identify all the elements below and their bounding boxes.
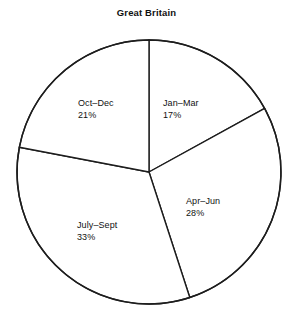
slice-label-oct-dec-name: Oct–Dec <box>78 98 114 110</box>
slice-label-july-sept: July–Sept 33% <box>77 220 117 243</box>
pie-slices-group <box>17 40 281 304</box>
slice-label-apr-jun-value: 28% <box>186 208 220 220</box>
slice-label-apr-jun: Apr–Jun 28% <box>186 196 220 219</box>
slice-label-apr-jun-name: Apr–Jun <box>186 196 220 208</box>
slice-label-jan-mar-name: Jan–Mar <box>163 98 199 110</box>
slice-label-jan-mar-value: 17% <box>163 110 199 122</box>
slice-label-july-sept-value: 33% <box>77 232 117 244</box>
slice-label-oct-dec: Oct–Dec 21% <box>78 98 114 121</box>
pie-svg-canvas <box>0 0 293 321</box>
slice-label-jan-mar: Jan–Mar 17% <box>163 98 199 121</box>
slice-label-july-sept-name: July–Sept <box>77 220 117 232</box>
pie-chart: Great Britain Jan–Mar 17% Apr–Jun 28% Ju… <box>0 0 293 321</box>
slice-label-oct-dec-value: 21% <box>78 110 114 122</box>
